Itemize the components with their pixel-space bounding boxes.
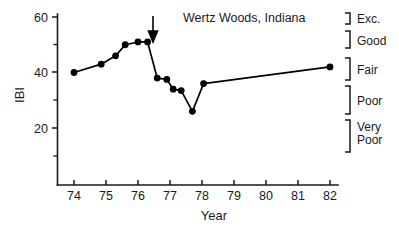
data-point <box>200 80 207 87</box>
bracket-label-good: Good <box>357 34 386 48</box>
bracket-label-very: Very <box>357 120 381 134</box>
x-tick-label-81: 81 <box>291 189 305 203</box>
x-tick-label-80: 80 <box>259 189 273 203</box>
bracket-label-exc: Exc. <box>357 12 380 26</box>
data-point <box>163 76 170 83</box>
y-axis-title: IBI <box>12 87 27 103</box>
ibi-line-chart: 60 40 20 IBI 74 75 76 77 78 79 80 81 82 … <box>0 0 399 234</box>
chart-container: 60 40 20 IBI 74 75 76 77 78 79 80 81 82 … <box>0 0 399 234</box>
series-line-ibi <box>74 42 330 111</box>
bracket-label-fair: Fair <box>357 63 378 77</box>
bracket-poor <box>345 86 350 114</box>
data-point <box>135 39 142 46</box>
series-group <box>71 39 334 115</box>
bracket-label-poor: Poor <box>357 94 382 108</box>
y-tick-label-60: 60 <box>34 11 48 25</box>
data-point <box>170 86 177 93</box>
bracket-good <box>345 31 350 48</box>
bracket-very-poor <box>345 120 350 152</box>
data-point <box>98 61 105 68</box>
x-tick-label-77: 77 <box>163 189 177 203</box>
data-point <box>122 41 129 48</box>
y-tick-label-40: 40 <box>34 66 48 80</box>
data-point <box>112 52 119 59</box>
arrow-annotation-icon <box>149 16 158 42</box>
data-point <box>71 69 78 76</box>
data-point <box>189 108 196 115</box>
x-tick-label-78: 78 <box>195 189 209 203</box>
bracket-fair <box>345 58 350 80</box>
x-tick-label-76: 76 <box>131 189 145 203</box>
x-tick-label-74: 74 <box>67 189 81 203</box>
data-point <box>327 64 334 71</box>
y-tick-label-20: 20 <box>34 122 48 136</box>
x-tick-label-82: 82 <box>323 189 337 203</box>
data-point <box>154 75 161 82</box>
category-brackets <box>345 13 350 152</box>
bracket-label-very-poor2: Poor <box>357 133 382 147</box>
x-axis-title: Year <box>201 208 228 223</box>
data-point <box>144 39 151 46</box>
x-tick-label-79: 79 <box>227 189 241 203</box>
chart-title: Wertz Woods, Indiana <box>183 11 306 25</box>
data-point <box>178 87 185 94</box>
x-tick-label-75: 75 <box>99 189 113 203</box>
bracket-exc <box>345 13 350 24</box>
series-markers <box>71 39 334 115</box>
